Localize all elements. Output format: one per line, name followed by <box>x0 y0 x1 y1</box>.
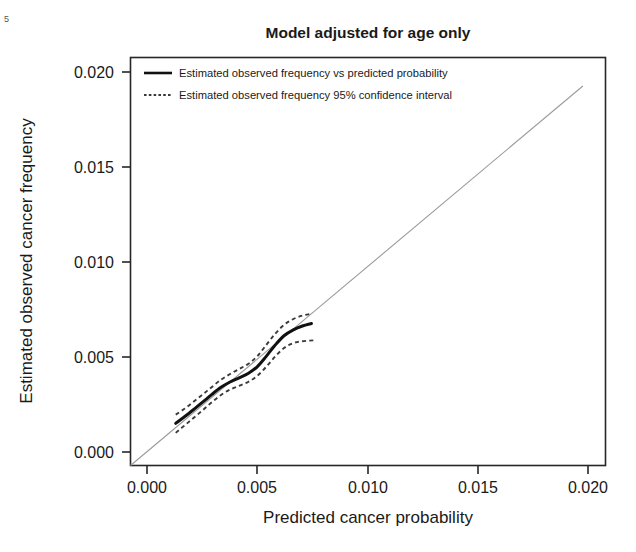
x-tick-label: 0.000 <box>127 479 167 496</box>
y-tick-label: 0.015 <box>74 159 114 176</box>
x-axis-title: Predicted cancer probability <box>263 508 473 527</box>
y-axis-title: Estimated observed cancer frequency <box>17 118 36 404</box>
y-tick-label: 0.000 <box>74 444 114 461</box>
y-axis-tick-labels: 0.000 0.005 0.010 0.015 0.020 <box>74 64 114 461</box>
confidence-interval-upper-line <box>176 314 312 415</box>
y-tick-label: 0.020 <box>74 64 114 81</box>
figure-corner-mark: 5 <box>4 14 9 24</box>
x-tick-label: 0.005 <box>237 479 277 496</box>
y-tick-label: 0.005 <box>74 349 114 366</box>
reference-diagonal-line <box>131 86 583 466</box>
x-tick-label: 0.020 <box>568 479 608 496</box>
legend: Estimated observed frequency vs predicte… <box>144 67 452 101</box>
x-tick-label: 0.010 <box>348 479 388 496</box>
confidence-interval-lower-line <box>176 340 316 433</box>
x-axis-ticks <box>147 466 588 475</box>
y-tick-label: 0.010 <box>74 254 114 271</box>
legend-label-calibration: Estimated observed frequency vs predicte… <box>179 67 448 79</box>
chart-title: Model adjusted for age only <box>266 24 471 41</box>
x-axis-tick-labels: 0.000 0.005 0.010 0.015 0.020 <box>127 479 608 496</box>
calibration-curve-line <box>176 324 312 424</box>
calibration-plot-figure: 5 Model adjusted for age only 0.000 0.00… <box>0 0 636 552</box>
legend-label-confidence-interval: Estimated observed frequency 95% confide… <box>179 89 452 101</box>
calibration-chart: 5 Model adjusted for age only 0.000 0.00… <box>0 0 636 552</box>
y-axis-ticks <box>122 72 131 452</box>
x-tick-label: 0.015 <box>458 479 498 496</box>
